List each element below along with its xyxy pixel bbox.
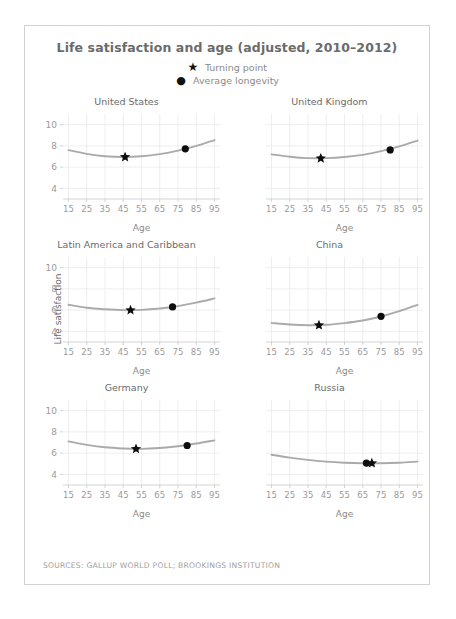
- svg-text:55: 55: [136, 347, 147, 357]
- svg-text:10: 10: [46, 406, 58, 416]
- svg-text:Age: Age: [133, 366, 151, 376]
- svg-text:95: 95: [209, 204, 220, 214]
- svg-text:65: 65: [154, 347, 165, 357]
- svg-text:95: 95: [412, 490, 423, 500]
- svg-text:Age: Age: [336, 509, 354, 519]
- legend-label-turning-point: Turning point: [205, 62, 267, 73]
- svg-text:35: 35: [303, 347, 314, 357]
- svg-text:95: 95: [412, 204, 423, 214]
- svg-text:15: 15: [63, 490, 74, 500]
- svg-text:55: 55: [339, 204, 350, 214]
- source-note: SOURCES: GALLUP WORLD POLL; BROOKINGS IN…: [43, 561, 280, 570]
- panel-plot: 152535455565758595Age: [228, 94, 431, 237]
- panel-russia: Russia152535455565758595Age: [228, 380, 431, 523]
- svg-text:15: 15: [63, 347, 74, 357]
- svg-text:Age: Age: [336, 366, 354, 376]
- svg-text:55: 55: [339, 490, 350, 500]
- svg-text:75: 75: [173, 204, 184, 214]
- svg-text:6: 6: [51, 162, 57, 172]
- turning-point-marker: [316, 153, 326, 163]
- svg-text:25: 25: [81, 347, 92, 357]
- panel-plot: 15253545556575859546810Age: [25, 94, 228, 237]
- svg-text:65: 65: [357, 204, 368, 214]
- svg-text:4: 4: [51, 470, 57, 480]
- svg-text:85: 85: [191, 490, 202, 500]
- svg-text:55: 55: [339, 347, 350, 357]
- legend-item-average-longevity: ● Average longevity: [175, 74, 279, 86]
- svg-text:Age: Age: [133, 509, 151, 519]
- panel-title: China: [228, 239, 431, 250]
- svg-text:85: 85: [191, 347, 202, 357]
- panel-title: Russia: [228, 382, 431, 393]
- svg-text:15: 15: [266, 490, 277, 500]
- svg-text:8: 8: [51, 427, 57, 437]
- svg-text:4: 4: [51, 184, 57, 194]
- svg-text:35: 35: [100, 204, 111, 214]
- panel-title: Germany: [25, 382, 228, 393]
- y-axis-label: Life satisfaction: [53, 273, 63, 344]
- svg-text:65: 65: [154, 204, 165, 214]
- chart-legend: ★ Turning point ● Average longevity: [25, 61, 429, 86]
- svg-text:65: 65: [357, 347, 368, 357]
- svg-text:75: 75: [173, 347, 184, 357]
- svg-text:75: 75: [173, 490, 184, 500]
- turning-point-marker: [131, 443, 141, 453]
- svg-text:55: 55: [136, 490, 147, 500]
- svg-text:35: 35: [303, 204, 314, 214]
- svg-text:8: 8: [51, 141, 57, 151]
- svg-text:45: 45: [321, 204, 332, 214]
- circle-icon: ●: [175, 74, 187, 86]
- average-longevity-marker: [182, 145, 189, 152]
- panel-germany: Germany15253545556575859546810Age: [25, 380, 228, 523]
- svg-text:45: 45: [118, 490, 129, 500]
- panel-plot: 15253545556575859546810Age: [25, 380, 228, 523]
- svg-text:95: 95: [412, 347, 423, 357]
- svg-text:85: 85: [394, 490, 405, 500]
- svg-text:65: 65: [357, 490, 368, 500]
- svg-text:Age: Age: [336, 223, 354, 233]
- svg-text:35: 35: [303, 490, 314, 500]
- svg-text:65: 65: [154, 490, 165, 500]
- svg-text:75: 75: [376, 347, 387, 357]
- svg-text:25: 25: [81, 490, 92, 500]
- average-longevity-marker: [169, 303, 176, 310]
- svg-text:25: 25: [284, 490, 295, 500]
- panel-latin-america-and-caribbean: Latin America and CaribbeanLife satisfac…: [25, 237, 228, 380]
- turning-point-marker: [125, 305, 135, 315]
- legend-label-average-longevity: Average longevity: [193, 75, 279, 86]
- svg-text:95: 95: [209, 347, 220, 357]
- svg-text:75: 75: [376, 490, 387, 500]
- svg-text:15: 15: [63, 204, 74, 214]
- panel-title: United States: [25, 96, 228, 107]
- panel-united-states: United States15253545556575859546810Age: [25, 94, 228, 237]
- svg-text:95: 95: [209, 490, 220, 500]
- panel-china: China152535455565758595Age: [228, 237, 431, 380]
- svg-text:45: 45: [118, 204, 129, 214]
- svg-text:10: 10: [46, 120, 58, 130]
- panel-plot: 152535455565758595Age: [228, 380, 431, 523]
- svg-text:25: 25: [81, 204, 92, 214]
- legend-item-turning-point: ★ Turning point: [187, 61, 267, 73]
- svg-text:75: 75: [376, 204, 387, 214]
- svg-text:85: 85: [394, 204, 405, 214]
- svg-text:15: 15: [266, 347, 277, 357]
- chart-card: Life satisfaction and age (adjusted, 201…: [24, 25, 430, 585]
- svg-text:Age: Age: [133, 223, 151, 233]
- svg-text:25: 25: [284, 204, 295, 214]
- svg-text:25: 25: [284, 347, 295, 357]
- average-longevity-marker: [377, 313, 384, 320]
- svg-text:45: 45: [321, 347, 332, 357]
- panel-title: Latin America and Caribbean: [25, 239, 228, 250]
- svg-text:35: 35: [100, 347, 111, 357]
- turning-point-marker: [120, 152, 130, 162]
- panel-grid: United States15253545556575859546810AgeU…: [25, 94, 429, 523]
- svg-text:35: 35: [100, 490, 111, 500]
- svg-text:45: 45: [118, 347, 129, 357]
- panel-united-kingdom: United Kingdom152535455565758595Age: [228, 94, 431, 237]
- chart-title: Life satisfaction and age (adjusted, 201…: [25, 40, 429, 55]
- svg-text:85: 85: [394, 347, 405, 357]
- panel-plot: 152535455565758595Age: [228, 237, 431, 380]
- star-icon: ★: [187, 61, 199, 73]
- svg-text:10: 10: [46, 263, 58, 273]
- svg-text:55: 55: [136, 204, 147, 214]
